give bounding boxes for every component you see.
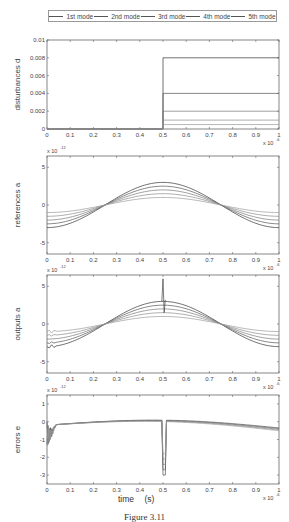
- panel-3: [47, 275, 279, 373]
- x-tick-label: 0.6: [182, 257, 191, 263]
- y-tick-label: 0: [42, 202, 46, 208]
- figure-caption: Figure 3.11: [0, 512, 289, 522]
- x-axis-label: time (s): [118, 494, 154, 504]
- svg-text:-12: -12: [60, 264, 67, 269]
- x-tick-label: 0.7: [205, 487, 214, 493]
- svg-text:x 10: x 10: [263, 265, 273, 271]
- y-tick-label: -2: [40, 454, 46, 460]
- x-tick-label: 0.8: [228, 132, 237, 138]
- x-tick-label: 0: [45, 132, 49, 138]
- x-tick-label: 0.9: [252, 132, 261, 138]
- x-tick-label: 0.6: [182, 376, 191, 382]
- panel-1: [47, 40, 279, 129]
- x-tick-label: 0.4: [136, 487, 145, 493]
- y-tick-label: -3: [40, 472, 46, 478]
- y-tick-label: 1: [42, 401, 46, 407]
- y-tick-label: 0.01: [33, 37, 45, 43]
- x-tick-label: 0.8: [228, 376, 237, 382]
- x-tick-label: 0.7: [205, 132, 214, 138]
- x-tick-label: 0.4: [136, 376, 145, 382]
- x-tick-label: 0.2: [89, 257, 98, 263]
- x-tick-label: 0.1: [66, 487, 75, 493]
- y-axis-label: outputs a: [13, 307, 22, 340]
- x-tick-label: 0.8: [228, 487, 237, 493]
- x-tick-label: 0: [45, 257, 49, 263]
- x-tick-label: 0.2: [89, 132, 98, 138]
- panel-2: [47, 156, 279, 254]
- x-tick-label: 0.3: [112, 376, 121, 382]
- svg-text:x 10: x 10: [47, 148, 57, 154]
- x-tick-label: 0.5: [159, 376, 168, 382]
- x-tick-label: 0.2: [89, 376, 98, 382]
- y-tick-label: -5: [40, 240, 46, 246]
- x-tick-label: 0.4: [136, 257, 145, 263]
- x-tick-label: 0.3: [112, 132, 121, 138]
- x-tick-label: 0.9: [252, 257, 261, 263]
- y-axis-label: disturbances d: [13, 58, 22, 110]
- x-tick-label: 0.3: [112, 257, 121, 263]
- y-axis-label: references a: [13, 182, 22, 227]
- panel-4: [47, 395, 279, 484]
- y-tick-label: 0.002: [30, 108, 46, 114]
- x-tick-label: 0.5: [159, 487, 168, 493]
- y-tick-label: 5: [42, 164, 46, 170]
- y-tick-label: 5: [42, 283, 46, 289]
- svg-text:x 10: x 10: [47, 267, 57, 273]
- svg-text:x 10: x 10: [263, 140, 273, 146]
- x-tick-label: 0.3: [112, 487, 121, 493]
- x-tick-label: 0.2: [89, 487, 98, 493]
- x-tick-label: 0.7: [205, 376, 214, 382]
- x-tick-label: 0.9: [252, 487, 261, 493]
- x-tick-label: 0.5: [159, 257, 168, 263]
- y-tick-label: 0.006: [30, 73, 46, 79]
- x-tick-label: 0.6: [182, 487, 191, 493]
- svg-text:x 10: x 10: [47, 387, 57, 393]
- svg-text:-12: -12: [60, 145, 67, 150]
- x-tick-label: 0.8: [228, 257, 237, 263]
- svg-text:-12: -12: [60, 384, 67, 389]
- y-axis-label: errors e: [13, 425, 22, 453]
- x-tick-label: 0.7: [205, 257, 214, 263]
- x-tick-label: 0: [45, 376, 49, 382]
- x-tick-label: 0.6: [182, 132, 191, 138]
- y-tick-label: 0: [42, 321, 46, 327]
- x-tick-label: 0.1: [66, 132, 75, 138]
- x-tick-label: 0: [45, 487, 49, 493]
- y-tick-label: 0: [42, 419, 46, 425]
- svg-text:x 10: x 10: [263, 495, 273, 501]
- y-tick-label: 0.004: [30, 90, 46, 96]
- x-tick-label: 0.5: [159, 132, 168, 138]
- y-tick-label: -5: [40, 359, 46, 365]
- svg-text:x 10: x 10: [263, 384, 273, 390]
- x-tick-label: 0.4: [136, 132, 145, 138]
- x-tick-label: 0.1: [66, 257, 75, 263]
- y-tick-label: -1: [40, 437, 46, 443]
- x-tick-label: 0.9: [252, 376, 261, 382]
- y-tick-label: 0.008: [30, 55, 46, 61]
- x-tick-label: 0.1: [66, 376, 75, 382]
